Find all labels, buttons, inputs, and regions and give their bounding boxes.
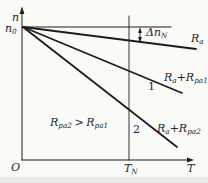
bottom-scan-shade [0,177,208,183]
delta-n-label: ΔnN [145,26,168,40]
ra-label: Ra [190,32,204,46]
figure-canvas: nn0ΔnNRaRa+Rpa11Rpa2>Rpa12Ra+Rpa2OTNT [0,0,208,183]
n0-label: n0 [5,22,17,36]
delta-top-arrowhead [138,28,142,33]
inequality-label: Rpa2>Rpa1 [49,116,108,130]
t-axis-label: T [187,162,196,175]
ra-rpa1-label: Ra+Rpa1 [163,71,208,85]
tn-label: TN [124,162,138,176]
curve2-label: 2 [133,123,140,136]
figure-svg: nn0ΔnNRaRa+Rpa11Rpa2>Rpa12Ra+Rpa2OTNT [0,0,208,183]
ra-rpa2-label: Ra+Rpa2 [156,122,201,136]
origin-label: O [11,161,20,174]
curve1-label: 1 [148,80,155,93]
n-axis-label: n [12,11,19,24]
y-axis-arrowhead [20,7,25,15]
